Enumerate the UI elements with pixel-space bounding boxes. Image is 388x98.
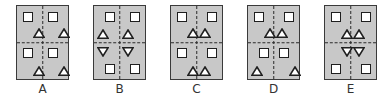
triangle-up-icon <box>276 28 288 38</box>
square-icon <box>254 12 264 22</box>
triangle-up-icon <box>353 29 365 39</box>
square-icon <box>48 12 58 22</box>
horizontal-dashed-divider <box>94 42 145 43</box>
triangle-up-icon <box>97 29 109 39</box>
option-label-b: B <box>93 83 146 95</box>
square-icon <box>130 12 140 22</box>
triangle-up-icon <box>187 66 199 76</box>
option-label-a: A <box>16 83 69 95</box>
square-icon <box>23 12 33 22</box>
square-icon <box>23 48 33 58</box>
option-panel-a[interactable] <box>16 5 69 80</box>
square-icon <box>279 48 289 58</box>
triangle-up-icon <box>58 66 70 76</box>
option-panel-b[interactable] <box>93 5 146 80</box>
triangle-up-icon <box>187 28 199 38</box>
square-icon <box>331 64 341 74</box>
option-label-d: D <box>247 83 300 95</box>
square-icon <box>207 48 217 58</box>
triangle-down-icon <box>97 47 109 57</box>
square-icon <box>177 48 187 58</box>
triangle-up-icon <box>122 29 134 39</box>
triangle-up-icon <box>289 66 301 76</box>
triangle-up-icon <box>199 66 211 76</box>
triangle-up-icon <box>341 29 353 39</box>
triangle-up-icon <box>58 28 70 38</box>
option-panel-c[interactable] <box>170 5 223 80</box>
square-icon <box>284 12 294 22</box>
triangle-up-icon <box>251 66 263 76</box>
square-icon <box>105 12 115 22</box>
horizontal-dashed-divider <box>325 42 376 43</box>
square-icon <box>361 64 371 74</box>
square-icon <box>331 12 341 22</box>
square-icon <box>48 48 58 58</box>
option-label-e: E <box>324 83 377 95</box>
option-panel-d[interactable] <box>247 5 300 80</box>
horizontal-dashed-divider <box>171 42 222 43</box>
triangle-up-icon <box>264 28 276 38</box>
square-icon <box>130 64 140 74</box>
square-icon <box>361 12 371 22</box>
option-panel-e[interactable] <box>324 5 377 80</box>
triangle-down-icon <box>341 47 353 57</box>
option-label-c: C <box>170 83 223 95</box>
square-icon <box>105 64 115 74</box>
triangle-down-icon <box>122 47 134 57</box>
triangle-down-icon <box>353 47 365 57</box>
triangle-up-icon <box>199 28 211 38</box>
triangle-up-icon <box>33 28 45 38</box>
square-icon <box>207 12 217 22</box>
horizontal-dashed-divider <box>17 42 68 43</box>
square-icon <box>177 12 187 22</box>
square-icon <box>259 48 269 58</box>
horizontal-dashed-divider <box>248 42 299 43</box>
triangle-up-icon <box>33 66 45 76</box>
